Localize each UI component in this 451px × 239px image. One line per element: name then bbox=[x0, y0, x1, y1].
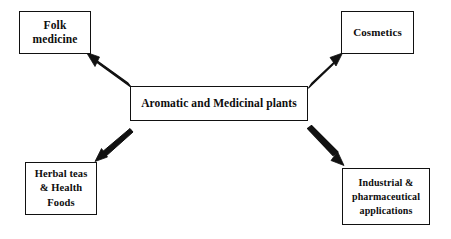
node-cosmetics[interactable]: Cosmetics bbox=[341, 11, 414, 54]
arrow-to-industrial bbox=[308, 126, 345, 166]
node-folk-medicine[interactable]: Folk medicine bbox=[19, 11, 91, 54]
node-industrial-label: Industrial & pharmaceutical applications bbox=[350, 176, 422, 218]
node-herbal-teas-label: Herbal teas & Health Foods bbox=[33, 167, 90, 210]
arrow-to-cosmetics bbox=[309, 53, 343, 88]
node-folk-medicine-label: Folk medicine bbox=[31, 19, 80, 46]
node-cosmetics-label: Cosmetics bbox=[351, 26, 404, 39]
node-herbal-teas-health-foods[interactable]: Herbal teas & Health Foods bbox=[25, 162, 97, 215]
arrow-to-folk-medicine bbox=[87, 53, 132, 88]
diagram-canvas: Folk medicine Cosmetics Aromatic and Med… bbox=[0, 0, 451, 239]
arrow-to-herbal-teas bbox=[95, 129, 133, 162]
node-central-aromatic-medicinal-plants[interactable]: Aromatic and Medicinal plants bbox=[130, 86, 308, 121]
node-industrial-pharmaceutical-applications[interactable]: Industrial & pharmaceutical applications bbox=[342, 168, 430, 225]
node-central-label: Aromatic and Medicinal plants bbox=[139, 97, 299, 111]
